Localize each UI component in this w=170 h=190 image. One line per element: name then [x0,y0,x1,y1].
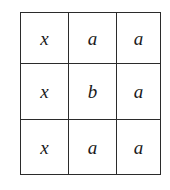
cell-r3c3: a [117,120,161,175]
cell-r3c2: a [69,120,117,175]
matrix-figure: x a a x b a x a a [20,12,157,171]
matrix-grid-body: x a a x b a x a a [21,13,161,175]
table-row: x a a [21,120,161,175]
table-row: x b a [21,64,161,120]
cell-r2c3: a [117,64,161,120]
cell-r1c3: a [117,13,161,64]
cell-r3c1: x [21,120,69,175]
table-row: x a a [21,13,161,64]
cell-r1c2: a [69,13,117,64]
cell-r1c1: x [21,13,69,64]
cell-r2c1: x [21,64,69,120]
cell-r2c2: b [69,64,117,120]
matrix-grid-table: x a a x b a x a a [20,12,161,175]
